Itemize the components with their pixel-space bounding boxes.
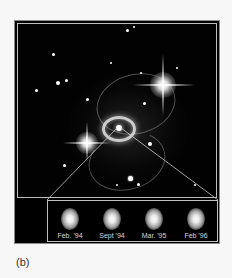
star: [143, 102, 146, 105]
star: [176, 67, 178, 69]
star: [63, 164, 66, 167]
central-star-blob: [187, 208, 205, 230]
light-curve-inset: Feb. '94 Sept '94 Mar. '95 Feb '96: [47, 200, 218, 242]
epoch-label: Mar. '95: [133, 232, 175, 240]
central-star-blob: [145, 208, 163, 230]
star: [110, 62, 112, 64]
epoch-4: Feb '96: [175, 201, 217, 241]
star: [128, 176, 133, 181]
panel-label: (b): [16, 256, 29, 268]
central-star: [116, 125, 122, 131]
star: [52, 53, 55, 56]
epoch-label: Sept '94: [91, 232, 133, 240]
spike-v: [162, 54, 164, 116]
central-star-blob: [103, 208, 121, 230]
star: [116, 184, 118, 186]
star: [148, 142, 152, 146]
star: [35, 89, 38, 92]
epoch-3: Mar. '95: [133, 201, 175, 241]
central-star-blob: [61, 208, 79, 230]
star: [194, 184, 196, 186]
spike-h: [133, 84, 195, 86]
star: [137, 183, 140, 186]
spike-v-left: [86, 122, 88, 162]
star: [56, 81, 60, 85]
star: [86, 98, 89, 101]
figure-frame: Feb. '94 Sept '94 Mar. '95 Feb '96: [15, 21, 219, 243]
epoch-label: Feb. '94: [49, 232, 91, 240]
star: [140, 72, 142, 74]
star: [133, 26, 135, 28]
star: [65, 79, 68, 82]
epoch-label: Feb '96: [175, 232, 217, 240]
starfield-image: [17, 23, 217, 198]
epoch-2: Sept '94: [91, 201, 133, 241]
star: [126, 29, 129, 32]
epoch-1: Feb. '94: [49, 201, 91, 241]
